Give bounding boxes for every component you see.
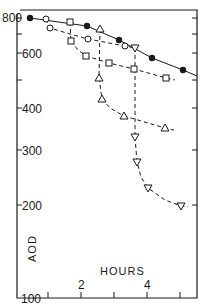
y-label-100: 100 bbox=[21, 292, 41, 306]
x-axis-title: HOURS bbox=[100, 265, 145, 277]
aod-hours-chart: 800 600 400 300 200 100 2 4 HOURS AOD bbox=[0, 0, 209, 307]
y-label-300: 300 bbox=[22, 144, 42, 158]
series-lines bbox=[30, 18, 197, 207]
line-triangles-up bbox=[99, 78, 174, 130]
x-label-2: 2 bbox=[78, 278, 85, 292]
y-axis-title: AOD bbox=[26, 235, 38, 262]
line-triangles-down bbox=[135, 137, 188, 207]
line-triangles-up-vertical bbox=[99, 29, 100, 78]
markers-triangles-down bbox=[131, 45, 185, 210]
line-open-circles bbox=[46, 19, 135, 48]
x-tick-labels: 2 4 bbox=[78, 278, 151, 292]
y-label-400: 400 bbox=[22, 102, 42, 116]
x-label-4: 4 bbox=[144, 278, 151, 292]
line-filled-circles bbox=[30, 18, 197, 76]
y-label-800: 800 bbox=[2, 11, 22, 25]
y-axis-ticks bbox=[17, 18, 197, 205]
x-axis-ticks bbox=[48, 292, 180, 298]
plot-frame bbox=[17, 10, 197, 298]
y-label-600: 600 bbox=[22, 47, 42, 61]
markers-open-squares bbox=[67, 19, 169, 81]
markers-triangles-up bbox=[95, 25, 169, 131]
y-label-200: 200 bbox=[22, 199, 42, 213]
